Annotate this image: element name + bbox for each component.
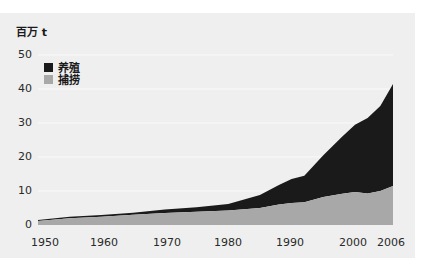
legend-swatch-aquaculture bbox=[44, 63, 53, 72]
y-tick-label: 0 bbox=[10, 218, 32, 231]
plot-area bbox=[0, 0, 425, 266]
y-tick-label: 50 bbox=[10, 48, 32, 61]
y-tick-label: 10 bbox=[10, 184, 32, 197]
legend-label-capture: 捕捞 bbox=[58, 71, 80, 87]
y-tick-label: 30 bbox=[10, 116, 32, 129]
x-tick-label: 1960 bbox=[84, 236, 124, 249]
x-tick-label: 2006 bbox=[371, 236, 411, 249]
y-tick-label: 40 bbox=[10, 82, 32, 95]
x-tick-label: 1950 bbox=[25, 236, 65, 249]
y-tick-label: 20 bbox=[10, 150, 32, 163]
x-tick-label: 2000 bbox=[333, 236, 373, 249]
legend-swatch-capture bbox=[44, 75, 53, 84]
x-tick-label: 1970 bbox=[147, 236, 187, 249]
x-tick-label: 1990 bbox=[270, 236, 310, 249]
x-tick-label: 1980 bbox=[208, 236, 248, 249]
legend-item-capture: 捕捞 bbox=[44, 74, 80, 84]
y-axis-unit-label: 百万 t bbox=[16, 23, 47, 39]
